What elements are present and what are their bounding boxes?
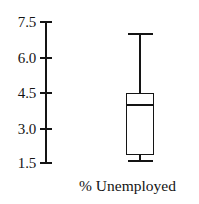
- y-tick-label-1-5: 1.5: [2, 156, 36, 171]
- y-tick-label-6-0: 6.0: [2, 51, 36, 66]
- y-tick-mark-7-5: [40, 21, 52, 23]
- y-tick-mark-6-0: [40, 57, 52, 59]
- box-plot-chart: 7.5 6.0 4.5 3.0 1.5 % Unemployed: [0, 0, 199, 204]
- y-tick-label-3-0: 3.0: [2, 122, 36, 137]
- y-tick-mark-3-0: [40, 128, 52, 130]
- median-line: [126, 104, 154, 106]
- interquartile-box: [126, 93, 154, 155]
- y-tick-mark-4-5: [40, 92, 52, 94]
- y-tick-label-7-5: 7.5: [2, 15, 36, 30]
- upper-whisker-line: [139, 34, 141, 93]
- lower-whisker-cap: [128, 160, 153, 162]
- x-axis-label: % Unemployed: [60, 177, 195, 195]
- y-tick-mark-1-5: [40, 162, 52, 164]
- y-tick-label-4-5: 4.5: [2, 86, 36, 101]
